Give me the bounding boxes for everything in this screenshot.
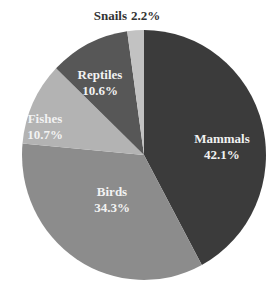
slice-label-reptiles: Reptiles 10.6%: [78, 67, 123, 99]
slice-name: Birds: [94, 184, 130, 200]
slice-percent: 34.3%: [94, 200, 130, 216]
slice-name: Reptiles: [78, 67, 123, 83]
slice-name: Mammals: [194, 131, 250, 147]
slice-percent: 10.6%: [78, 83, 123, 99]
slice-label-fishes: Fishes 10.7%: [27, 111, 63, 143]
slice-percent: 42.1%: [194, 147, 250, 163]
slice-name: Snails: [94, 8, 127, 23]
slice-percent: 10.7%: [27, 127, 63, 143]
slice-name: Fishes: [27, 111, 63, 127]
slice-label-mammals: Mammals 42.1%: [194, 131, 250, 163]
slice-label-snails: Snails2.2%: [94, 8, 161, 24]
slice-percent: 2.2%: [131, 8, 160, 23]
slice-label-birds: Birds 34.3%: [94, 184, 130, 216]
